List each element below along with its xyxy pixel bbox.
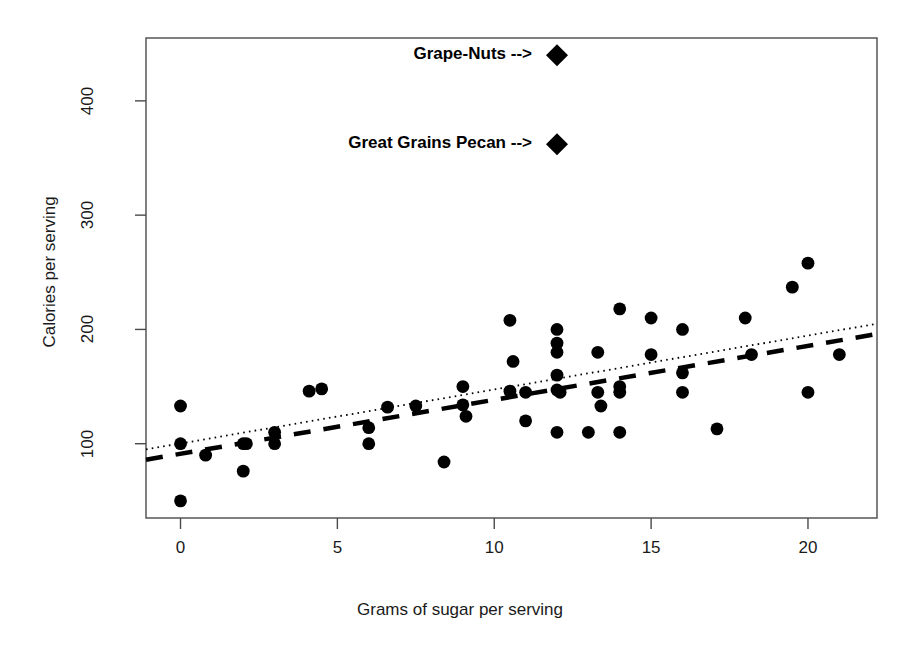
highlighted-marker-series bbox=[546, 44, 568, 155]
data-point bbox=[240, 437, 253, 450]
data-point bbox=[268, 437, 281, 450]
data-point bbox=[676, 386, 689, 399]
data-point bbox=[833, 348, 846, 361]
data-point bbox=[507, 355, 520, 368]
plot-canvas bbox=[0, 0, 920, 654]
data-point bbox=[551, 323, 564, 336]
data-point bbox=[456, 380, 469, 393]
data-point bbox=[504, 385, 517, 398]
data-point bbox=[303, 385, 316, 398]
x-tick-label: 5 bbox=[317, 538, 357, 558]
data-point bbox=[551, 369, 564, 382]
highlighted-data-point bbox=[546, 133, 568, 155]
data-point bbox=[519, 414, 532, 427]
plot-border bbox=[146, 38, 877, 518]
data-point bbox=[174, 400, 187, 413]
y-axis-title: Calories per serving bbox=[40, 162, 60, 382]
data-point bbox=[174, 494, 187, 507]
data-point bbox=[582, 426, 595, 439]
data-point bbox=[745, 348, 758, 361]
scatter-plot-figure: Grams of sugar per serving Calories per … bbox=[0, 0, 920, 654]
data-point bbox=[174, 437, 187, 450]
data-point bbox=[595, 400, 608, 413]
data-point-series bbox=[174, 257, 846, 508]
data-point bbox=[591, 346, 604, 359]
data-point bbox=[613, 426, 626, 439]
data-point bbox=[645, 312, 658, 325]
data-point bbox=[613, 302, 626, 315]
data-point bbox=[676, 323, 689, 336]
data-point bbox=[362, 437, 375, 450]
data-point bbox=[268, 426, 281, 439]
data-point bbox=[613, 386, 626, 399]
data-point bbox=[591, 386, 604, 399]
data-point bbox=[802, 257, 815, 270]
y-tick-label: 300 bbox=[78, 185, 98, 245]
data-point bbox=[554, 386, 567, 399]
data-point bbox=[456, 398, 469, 411]
x-tick-label: 15 bbox=[631, 538, 671, 558]
data-point-annotation: Great Grains Pecan --> bbox=[132, 133, 532, 153]
data-point bbox=[438, 456, 451, 469]
data-point bbox=[676, 366, 689, 379]
data-point bbox=[645, 348, 658, 361]
data-point bbox=[199, 449, 212, 462]
y-tick-label: 200 bbox=[78, 299, 98, 359]
highlighted-data-point bbox=[546, 44, 568, 66]
data-point bbox=[362, 421, 375, 434]
data-point bbox=[802, 386, 815, 399]
data-point bbox=[711, 422, 724, 435]
x-tick-label: 20 bbox=[788, 538, 828, 558]
x-tick-label: 10 bbox=[474, 538, 514, 558]
y-tick-label: 400 bbox=[78, 71, 98, 131]
data-point bbox=[460, 410, 473, 423]
x-axis-title: Grams of sugar per serving bbox=[0, 600, 920, 620]
data-point bbox=[786, 281, 799, 294]
data-point bbox=[409, 400, 422, 413]
data-point bbox=[551, 346, 564, 359]
data-point bbox=[237, 465, 250, 478]
data-point bbox=[739, 312, 752, 325]
y-tick-label: 100 bbox=[78, 414, 98, 474]
data-point bbox=[315, 382, 328, 395]
axis-ticks bbox=[135, 101, 808, 529]
x-tick-label: 0 bbox=[161, 538, 201, 558]
plot-frame bbox=[146, 38, 877, 518]
data-point bbox=[519, 386, 532, 399]
data-point bbox=[504, 314, 517, 327]
data-point-annotation: Grape-Nuts --> bbox=[132, 44, 532, 64]
data-point bbox=[551, 426, 564, 439]
data-point bbox=[381, 401, 394, 414]
